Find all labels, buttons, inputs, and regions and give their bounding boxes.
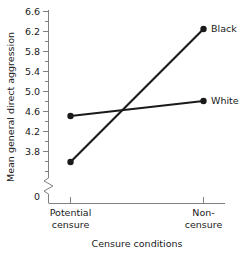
y-tick-label-5-4: 5.4 xyxy=(25,66,40,77)
data-point-white-potential-censure xyxy=(67,113,73,119)
y-tick-label-3-8: 3.8 xyxy=(25,146,40,157)
y-tick-label-0: 0 xyxy=(34,191,40,202)
y-tick-label-6-2: 6.2 xyxy=(25,26,40,37)
y-axis-title: Mean general direct aggression xyxy=(5,32,16,182)
y-tick-label-4-2: 4.2 xyxy=(25,126,40,137)
y-tick-label-5-8: 5.8 xyxy=(25,46,40,57)
data-point-black-non-censure xyxy=(200,26,206,32)
y-tick-label-4-6: 4.6 xyxy=(25,106,40,117)
chart-container: 6.6 6.2 5.8 5.4 5.0 4.6 4.2 3.8 0 Black … xyxy=(0,0,246,255)
x-axis-title: Censure conditions xyxy=(92,238,183,249)
x-category-label-1-line2: censure xyxy=(52,219,90,230)
x-category-label-2-line2: censure xyxy=(185,219,223,230)
series-label-white: White xyxy=(211,95,239,106)
line-chart: 6.6 6.2 5.8 5.4 5.0 4.6 4.2 3.8 0 Black … xyxy=(0,0,246,255)
x-category-label-2-line1: Non- xyxy=(192,207,214,218)
y-tick-label-5-0: 5.0 xyxy=(25,86,40,97)
data-point-white-non-censure xyxy=(200,98,206,104)
x-category-label-1-line1: Potential xyxy=(50,207,92,218)
series-label-black: Black xyxy=(211,23,237,34)
y-tick-label-6-6: 6.6 xyxy=(25,6,40,17)
data-point-black-potential-censure xyxy=(67,159,73,165)
